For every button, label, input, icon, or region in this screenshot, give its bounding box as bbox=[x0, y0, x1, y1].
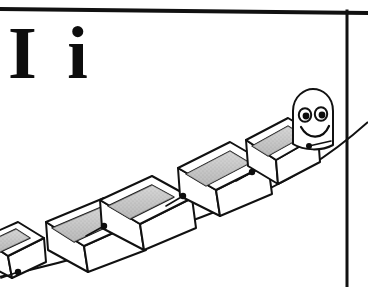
pupil-left-icon bbox=[303, 113, 310, 120]
pupil-right-icon bbox=[319, 112, 326, 119]
segment-tail bbox=[0, 222, 46, 278]
foot-dot bbox=[306, 143, 312, 149]
alphabet-flashcard: I i bbox=[0, 0, 368, 287]
inchworm-body bbox=[0, 89, 333, 278]
foot-dot bbox=[15, 269, 21, 275]
foot-dot bbox=[180, 193, 186, 199]
foot-dot bbox=[101, 223, 107, 229]
top-rule bbox=[0, 9, 368, 13]
foot-dot bbox=[249, 169, 255, 175]
inchworm-head bbox=[293, 89, 333, 149]
inchworm-illustration bbox=[0, 0, 368, 287]
